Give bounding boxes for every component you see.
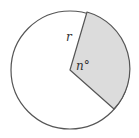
- circle-diagram-svg: [0, 0, 139, 138]
- angle-label: n°: [76, 60, 90, 72]
- radius-label: r: [66, 31, 72, 43]
- circle-sector-diagram: r n°: [0, 0, 139, 138]
